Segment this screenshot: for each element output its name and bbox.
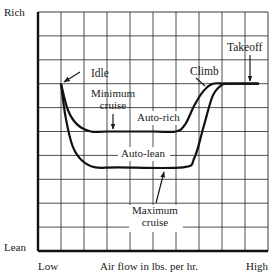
climb-arrow xyxy=(196,78,205,86)
maximum-cruise-label-1: Maximum xyxy=(132,204,178,216)
takeoff-label: Takeoff xyxy=(227,41,263,53)
minimum-cruise-label-2: cruise xyxy=(100,99,126,111)
maximum-cruise-label-2: cruise xyxy=(142,216,168,228)
climb-label: Climb xyxy=(190,65,219,77)
x-axis-title: Air flow in lbs. per hr. xyxy=(100,260,198,272)
auto-rich-label: Auto-rich xyxy=(137,111,180,123)
idle-label: Idle xyxy=(91,67,109,79)
mixture-chart: Idle Minimum cruise Auto-rich Auto-lean … xyxy=(0,0,279,278)
x-label-high: High xyxy=(246,260,269,272)
y-label-lean: Lean xyxy=(4,241,26,253)
idle-arrow xyxy=(64,72,80,82)
maximum-cruise-arrow xyxy=(156,172,164,203)
auto-lean-label: Auto-lean xyxy=(121,147,165,159)
y-label-rich: Rich xyxy=(4,6,25,18)
minimum-cruise-label-1: Minimum xyxy=(91,87,135,99)
x-label-low: Low xyxy=(38,260,58,272)
